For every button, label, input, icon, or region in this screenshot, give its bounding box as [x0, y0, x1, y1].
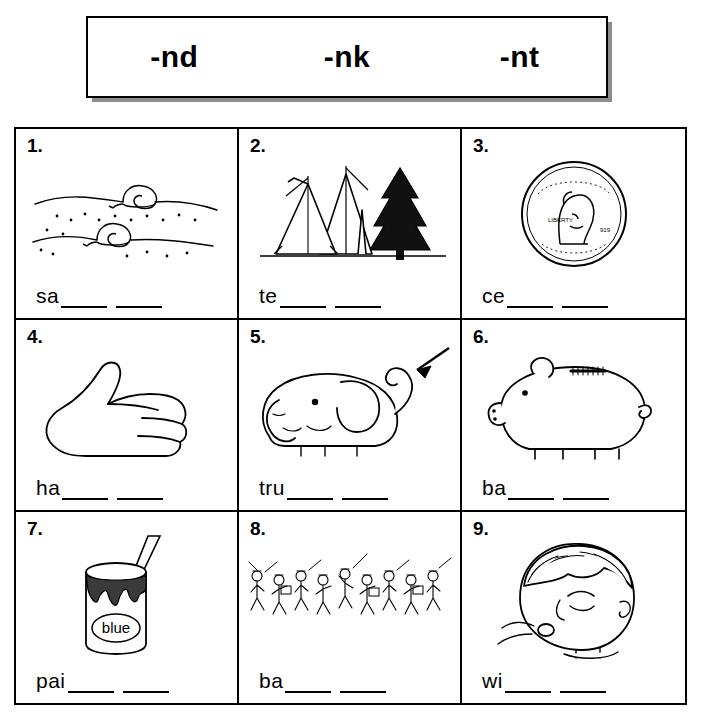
paint-can-labeled-blue-icon: blue	[16, 538, 237, 656]
answer-blank-b[interactable]	[335, 289, 381, 308]
answer-blank-a[interactable]	[280, 289, 326, 308]
item-number: 1.	[27, 135, 43, 157]
penny-coin-icon: LIBERTY 919	[462, 155, 685, 273]
item-number: 3.	[473, 135, 489, 157]
word-stem: ha	[36, 476, 60, 500]
word-parts-header: -nd -nk -nt	[86, 16, 608, 98]
answer-line-8: ba	[259, 669, 386, 693]
answer-blank-a[interactable]	[287, 481, 333, 500]
paint-can-label: blue	[101, 619, 129, 636]
tent-with-tree-icon	[239, 155, 460, 273]
answer-blank-b[interactable]	[116, 289, 162, 308]
answer-blank-a[interactable]	[505, 674, 551, 693]
face-blowing-wind-icon	[462, 538, 685, 656]
answer-line-1: sa	[36, 284, 162, 308]
marching-band-icon	[239, 538, 460, 656]
answer-line-6: ba	[482, 476, 609, 500]
svg-text:LIBERTY: LIBERTY	[548, 217, 573, 223]
worksheet-item-5: 5.	[239, 320, 462, 511]
worksheet-item-8: 8.	[239, 512, 462, 703]
answer-blank-a[interactable]	[61, 289, 107, 308]
answer-blank-b[interactable]	[123, 674, 169, 693]
piggy-bank-icon	[462, 346, 685, 464]
answer-blank-b[interactable]	[562, 289, 608, 308]
word-stem: tru	[259, 476, 285, 500]
answer-blank-a[interactable]	[68, 674, 114, 693]
worksheet-item-3: 3. LIBERTY 919	[462, 129, 685, 320]
elephant-trunk-with-arrow-icon	[239, 346, 460, 464]
answer-blank-b[interactable]	[563, 481, 609, 500]
svg-text:919: 919	[600, 227, 611, 233]
answer-line-5: tru	[259, 476, 388, 500]
answer-line-4: ha	[36, 476, 163, 500]
worksheet-item-4: 4. ha	[16, 320, 239, 511]
item-number: 8.	[250, 518, 266, 540]
answer-line-9: wi	[482, 669, 606, 693]
word-stem: sa	[36, 284, 59, 308]
answer-blank-a[interactable]	[507, 289, 553, 308]
answer-blank-a[interactable]	[285, 674, 331, 693]
word-part-nd: -nd	[88, 40, 261, 74]
snail-on-sand-icon	[16, 155, 237, 273]
word-part-nk: -nk	[261, 40, 434, 74]
worksheet-item-1: 1.	[16, 129, 239, 320]
word-stem: ba	[482, 476, 506, 500]
worksheet-item-2: 2.	[239, 129, 462, 320]
word-stem: ba	[259, 669, 283, 693]
answer-blank-a[interactable]	[62, 481, 108, 500]
answer-blank-b[interactable]	[340, 674, 386, 693]
word-stem: pai	[36, 669, 66, 693]
item-number: 4.	[27, 326, 43, 348]
worksheet-item-9: 9.	[462, 512, 685, 703]
answer-line-3: ce	[482, 284, 608, 308]
word-stem: wi	[482, 669, 503, 693]
hand-icon	[16, 346, 237, 464]
answer-blank-a[interactable]	[508, 481, 554, 500]
word-stem: te	[259, 284, 278, 308]
answer-line-7: pai	[36, 669, 169, 693]
answer-blank-b[interactable]	[117, 481, 163, 500]
word-stem: ce	[482, 284, 505, 308]
word-part-nt: -nt	[433, 40, 606, 74]
item-number: 7.	[27, 518, 43, 540]
answer-blank-b[interactable]	[342, 481, 388, 500]
answer-blank-b[interactable]	[560, 674, 606, 693]
answer-line-2: te	[259, 284, 381, 308]
worksheet-item-6: 6.	[462, 320, 685, 511]
worksheet-item-7: 7. blue	[16, 512, 239, 703]
worksheet-grid: 1.	[14, 127, 687, 705]
